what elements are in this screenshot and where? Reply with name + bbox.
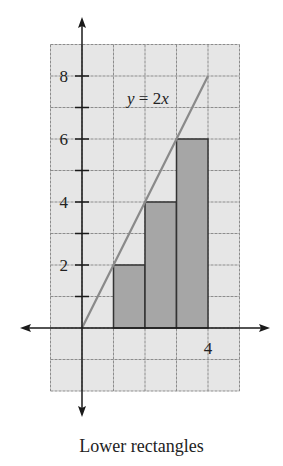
y-tick-label: 6 (60, 130, 69, 149)
chart-plot: 24684 y = 2x (0, 0, 283, 466)
lower-rectangle (145, 202, 177, 328)
y-tick-label: 2 (60, 256, 69, 275)
lower-rectangle (177, 139, 209, 328)
y-tick-label: 4 (60, 193, 69, 212)
x-tick-label: 4 (204, 339, 213, 358)
y-tick-label: 8 (60, 67, 69, 86)
chart-caption: Lower rectangles (0, 436, 283, 457)
function-label: y = 2x (125, 89, 169, 108)
lower-rectangle (114, 265, 146, 328)
